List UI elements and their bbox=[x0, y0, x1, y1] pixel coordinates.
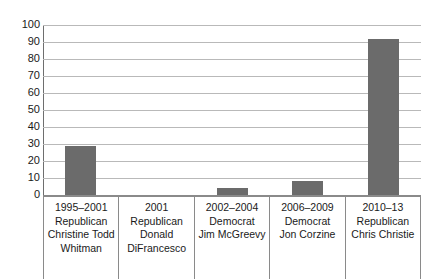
table-cell-party: Republican bbox=[346, 215, 420, 229]
table-cell-name-1: Donald bbox=[119, 228, 193, 242]
table-cell-name-1: Christine Todd bbox=[44, 228, 118, 242]
gridline-50 bbox=[43, 110, 421, 111]
gridline-90 bbox=[43, 42, 421, 43]
gridline-80 bbox=[43, 59, 421, 60]
gridline-40 bbox=[43, 127, 421, 128]
table-cell-name-1: Chris Christie bbox=[346, 228, 420, 242]
y-tick-label-40: 40 bbox=[0, 121, 40, 132]
y-tick-label-90: 90 bbox=[0, 36, 40, 47]
table-cell-1: 2001RepublicanDonaldDiFrancesco bbox=[118, 196, 193, 279]
table-cell-party: Democrat bbox=[195, 215, 269, 229]
table-cell-years: 1995–2001 bbox=[44, 201, 118, 215]
table-cell-party: Democrat bbox=[270, 215, 344, 229]
table-cell-years: 2001 bbox=[119, 201, 193, 215]
gridline-60 bbox=[43, 93, 421, 94]
y-tick-label-10: 10 bbox=[0, 172, 40, 183]
table-cell-years: 2010–13 bbox=[346, 201, 420, 215]
table-cell-name-2: Whitman bbox=[44, 242, 118, 256]
bar-0 bbox=[65, 146, 96, 195]
table-cell-3: 2006–2009DemocratJon Corzine bbox=[269, 196, 344, 279]
y-tick-label-0: 0 bbox=[0, 189, 40, 200]
table-cell-name-1: Jon Corzine bbox=[270, 228, 344, 242]
y-axis-labels: 1009080706050403020100 bbox=[0, 25, 40, 195]
table-cell-years: 2006–2009 bbox=[270, 201, 344, 215]
plot-area bbox=[43, 25, 421, 195]
bar-2 bbox=[217, 188, 248, 195]
bar-chart: 1009080706050403020100 1995–2001Republic… bbox=[0, 0, 438, 279]
table-cell-4: 2010–13RepublicanChris Christie bbox=[345, 196, 421, 279]
y-tick-label-80: 80 bbox=[0, 53, 40, 64]
bar-4 bbox=[368, 39, 399, 195]
gridline-30 bbox=[43, 144, 421, 145]
table-cell-name-2: DiFrancesco bbox=[119, 242, 193, 256]
y-tick-label-30: 30 bbox=[0, 138, 40, 149]
gridline-100 bbox=[43, 25, 421, 26]
table-cell-years: 2002–2004 bbox=[195, 201, 269, 215]
table-cell-2: 2002–2004DemocratJim McGreevy bbox=[194, 196, 269, 279]
gridline-70 bbox=[43, 76, 421, 77]
table-cell-name-1: Jim McGreevy bbox=[195, 228, 269, 242]
gridline-10 bbox=[43, 178, 421, 179]
y-tick-label-20: 20 bbox=[0, 155, 40, 166]
y-tick-label-100: 100 bbox=[0, 19, 40, 30]
table-cell-0: 1995–2001RepublicanChristine ToddWhitman bbox=[43, 196, 118, 279]
governors-table: 1995–2001RepublicanChristine ToddWhitman… bbox=[43, 196, 421, 279]
y-tick-label-50: 50 bbox=[0, 104, 40, 115]
y-tick-label-70: 70 bbox=[0, 70, 40, 81]
table-cell-party: Republican bbox=[44, 215, 118, 229]
y-tick-label-60: 60 bbox=[0, 87, 40, 98]
bar-3 bbox=[292, 181, 323, 195]
gridline-20 bbox=[43, 161, 421, 162]
table-cell-party: Republican bbox=[119, 215, 193, 229]
